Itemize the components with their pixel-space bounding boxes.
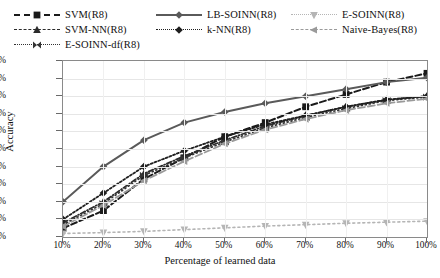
legend-marker	[172, 24, 186, 35]
y-axis-tick-mark	[56, 60, 62, 61]
legend-item[interactable]: E-SOINN-df(R8)	[14, 38, 140, 51]
legend-marker	[307, 9, 321, 20]
series-line	[63, 96, 427, 223]
x-axis-tick-mark	[386, 238, 387, 243]
legend-label: SVM-NN(R8)	[65, 24, 127, 35]
grid-line-vertical	[184, 61, 185, 237]
y-axis-tick-mark	[56, 130, 62, 131]
legend-item[interactable]: k-NN(R8)	[156, 23, 251, 36]
grid-line	[63, 79, 427, 80]
y-axis-tick-mark	[56, 113, 62, 114]
y-axis-tick-mark	[56, 218, 62, 219]
series-line	[63, 99, 427, 227]
y-axis-tick-mark	[56, 183, 62, 184]
legend-swatch	[156, 9, 202, 20]
grid-line	[63, 184, 427, 185]
x-axis-tick-mark	[264, 238, 265, 243]
grid-line	[63, 219, 427, 220]
y-axis-tick-mark	[56, 236, 62, 237]
legend-swatch	[291, 24, 337, 35]
legend-item[interactable]: SVM(R8)	[14, 8, 108, 21]
legend-marker	[172, 9, 186, 20]
x-axis-tick-mark	[224, 238, 225, 243]
grid-line-vertical	[346, 61, 347, 237]
grid-line-vertical	[265, 61, 266, 237]
y-axis-tick-label: 20.00%	[0, 197, 6, 206]
x-axis-tick-mark	[143, 238, 144, 243]
y-axis-tick-mark	[56, 166, 62, 167]
x-axis-tick-mark	[305, 238, 306, 243]
y-axis-tick-label: 0.00%	[0, 232, 6, 241]
x-axis-tick-mark	[345, 238, 346, 243]
legend-marker	[30, 39, 44, 50]
legend-label: LB-SOINN(R8)	[207, 9, 276, 20]
accuracy-line-chart: SVM(R8)SVM-NN(R8)E-SOINN-df(R8)LB-SOINN(…	[0, 0, 440, 278]
y-axis-tick-label: 10.00%	[0, 214, 6, 223]
grid-line	[63, 167, 427, 168]
chart-legend: SVM(R8)SVM-NN(R8)E-SOINN-df(R8)LB-SOINN(…	[14, 8, 434, 52]
y-axis-tick-mark	[56, 201, 62, 202]
legend-item[interactable]: LB-SOINN(R8)	[156, 8, 276, 21]
legend-label: E-SOINN-df(R8)	[65, 39, 140, 50]
y-axis-tick-label: 30.00%	[0, 179, 6, 188]
x-axis-tick-mark	[62, 238, 63, 243]
y-axis-label: Accuracy	[4, 87, 15, 177]
grid-line	[63, 149, 427, 150]
x-axis-tick-mark	[426, 238, 427, 243]
legend-swatch	[14, 9, 60, 20]
legend-marker	[30, 9, 44, 20]
y-axis-tick-label: 90.00%	[0, 74, 6, 83]
legend-swatch	[14, 39, 60, 50]
legend-marker	[307, 24, 321, 35]
grid-line-vertical	[225, 61, 226, 237]
grid-line	[63, 202, 427, 203]
legend-item[interactable]: E-SOINN(R8)	[291, 8, 404, 21]
x-axis-tick-mark	[102, 238, 103, 243]
grid-line-vertical	[144, 61, 145, 237]
legend-label: SVM(R8)	[65, 9, 108, 20]
y-axis-tick-mark	[56, 95, 62, 96]
y-axis-tick-label: 100.00%	[0, 56, 6, 65]
legend-item[interactable]: SVM-NN(R8)	[14, 23, 127, 36]
grid-line	[63, 131, 427, 132]
series-line	[63, 97, 427, 225]
legend-swatch	[156, 24, 202, 35]
grid-line	[63, 96, 427, 97]
x-axis-tick-mark	[183, 238, 184, 243]
legend-label: k-NN(R8)	[207, 24, 251, 35]
plot-area	[62, 60, 428, 238]
grid-line-vertical	[387, 61, 388, 237]
legend-label: E-SOINN(R8)	[342, 9, 404, 20]
x-axis-tick-label: 100%	[406, 241, 440, 250]
y-axis-tick-mark	[56, 78, 62, 79]
y-axis-tick-mark	[56, 148, 62, 149]
legend-label: Naive-Bayes(R8)	[342, 24, 417, 35]
series-line	[63, 221, 427, 233]
grid-line	[63, 114, 427, 115]
legend-item[interactable]: Naive-Bayes(R8)	[291, 23, 417, 36]
grid-line-vertical	[306, 61, 307, 237]
legend-swatch	[291, 9, 337, 20]
legend-swatch	[14, 24, 60, 35]
grid-line-vertical	[103, 61, 104, 237]
series-marker	[63, 230, 67, 237]
x-axis-label: Percentage of learned data	[0, 255, 440, 266]
legend-marker	[30, 24, 44, 35]
